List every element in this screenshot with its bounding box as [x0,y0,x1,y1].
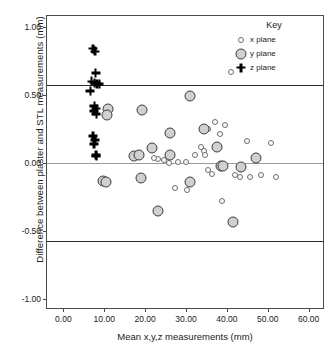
data-point-x-plane [151,155,157,161]
y-tick-mark [43,27,47,28]
x-tick-mark [145,308,146,312]
y-tick-label: 0.00 [24,158,41,168]
data-point-y-plane [134,149,145,160]
data-point-y-plane [137,104,148,115]
data-point-y-plane [100,177,111,188]
data-point-y-plane [211,141,222,152]
legend-marker-icon [233,47,249,60]
legend-entry: y plane [233,47,315,60]
x-tick-mark [104,308,105,312]
data-point-x-plane [237,174,243,180]
data-point-x-plane [183,159,189,165]
legend-label: y plane [250,49,276,58]
data-point-x-plane [172,185,178,191]
legend-entry: z plane [233,61,315,74]
legend-marker-icon [233,61,249,74]
data-point-y-plane [199,123,210,134]
data-point-x-plane [247,174,253,180]
x-tick-mark [63,308,64,312]
y-tick-label: -0.50 [22,226,41,236]
y-tick-label: 0.50 [24,90,41,100]
data-point-x-plane [273,174,279,180]
legend-label: x plane [250,35,276,44]
legend-label: z plane [250,63,276,72]
data-point-y-plane [153,205,164,216]
x-tick-label: 30.00 [175,314,196,324]
y-tick-mark [43,299,47,300]
data-point-z-plane [90,47,99,56]
data-point-y-plane [165,149,176,160]
data-point-z-plane [95,80,104,89]
y-tick-label: -1.00 [22,294,41,304]
y-tick-mark [43,95,47,96]
data-point-y-plane [185,91,196,102]
data-point-x-plane [212,119,218,125]
x-tick-label: 50.00 [257,314,278,324]
data-point-z-plane [90,139,99,148]
x-tick-label: 10.00 [94,314,115,324]
data-point-x-plane [217,131,223,137]
data-point-y-plane [228,216,239,227]
data-point-x-plane [166,160,172,166]
data-point-z-plane [86,86,95,95]
x-tick-mark [309,308,310,312]
marker-open-circle-small-icon [238,37,244,43]
legend-entry: x plane [233,33,315,46]
data-point-x-plane [209,171,215,177]
x-tick-label: 40.00 [216,314,237,324]
legend-marker-icon [233,33,249,46]
data-point-y-plane [251,152,262,163]
legend-title: Key [233,20,315,30]
data-point-y-plane [146,143,157,154]
data-point-y-plane [165,128,176,139]
data-point-y-plane [184,177,195,188]
data-point-z-plane [92,110,101,119]
data-point-x-plane [268,140,274,146]
x-tick-label: 60.00 [298,314,319,324]
x-tick-label: 0.00 [55,314,72,324]
plot-area: 1.000.500.00-0.50-1.00 0.0010.0020.0030.… [46,15,324,309]
x-tick-label: 20.00 [134,314,155,324]
data-point-z-plane [92,152,101,161]
x-tick-mark [268,308,269,312]
data-point-x-plane [258,172,264,178]
data-point-y-plane [236,162,247,173]
bland-altman-scatter-figure: Difference between plaster and STL measu… [0,0,329,348]
data-point-y-plane [136,172,147,183]
y-tick-mark [43,231,47,232]
marker-filled-circle-large-icon [236,48,247,59]
x-axis-title: Mean x,y,z measurements (mm) [46,331,324,342]
data-point-x-plane [192,152,198,158]
lower-limit-of-agreement-line [47,241,323,242]
data-point-x-plane [175,159,181,165]
data-point-x-plane [244,138,250,144]
data-point-x-plane [202,152,208,158]
x-tick-mark [186,308,187,312]
legend-entries: x planey planez plane [233,33,315,74]
marker-bold-plus-icon [237,63,246,72]
x-tick-mark [227,308,228,312]
data-point-x-plane [222,122,228,128]
data-point-y-plane [217,160,228,171]
y-tick-label: 1.00 [24,22,41,32]
legend: Key x planey planez plane [233,20,315,75]
data-point-x-plane [219,198,225,204]
data-point-x-plane [184,187,190,193]
data-point-y-plane [102,110,113,121]
